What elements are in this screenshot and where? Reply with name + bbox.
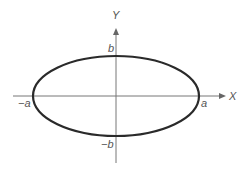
label-neg-b: −b	[101, 138, 114, 150]
y-axis-label: Y	[112, 9, 120, 21]
label-pos-b: b	[108, 42, 114, 54]
x-axis-label: X	[228, 90, 237, 102]
x-axis-arrow-icon	[219, 93, 226, 99]
label-pos-a: a	[201, 97, 207, 109]
ellipse-diagram: Y X b −b a −a	[0, 0, 248, 171]
label-neg-a: −a	[18, 97, 31, 109]
y-axis-arrow-icon	[113, 28, 119, 35]
